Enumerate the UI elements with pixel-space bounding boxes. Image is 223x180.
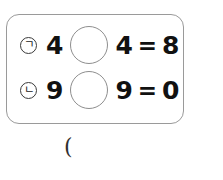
item-marker-circled-nieun: ㄴ (20, 82, 37, 99)
operator-blank-circle[interactable] (70, 26, 108, 64)
item-marker-label: ㄴ (23, 84, 34, 94)
item-marker-label: ㄱ (23, 39, 34, 49)
equals-sign: = (138, 79, 157, 102)
problem-box: ㄱ 4 4 = 8 ㄴ 9 9 = 0 (6, 14, 184, 124)
right-operand: 9 (115, 78, 132, 103)
result-value: 0 (162, 78, 179, 103)
right-operand: 4 (115, 33, 132, 58)
equation-row: ㄴ 9 9 = 0 (7, 67, 183, 113)
result-value: 8 (162, 33, 179, 58)
left-operand: 4 (46, 33, 63, 58)
equation-tail: 9 = 0 (115, 78, 179, 103)
left-operand: 9 (46, 78, 63, 103)
equals-sign: = (138, 34, 157, 57)
answer-open-paren: ( (64, 136, 73, 158)
equation-row: ㄱ 4 4 = 8 (7, 22, 183, 68)
equation-tail: 4 = 8 (115, 33, 179, 58)
item-marker-circled-giyeok: ㄱ (20, 37, 37, 54)
operator-blank-circle[interactable] (70, 71, 108, 109)
